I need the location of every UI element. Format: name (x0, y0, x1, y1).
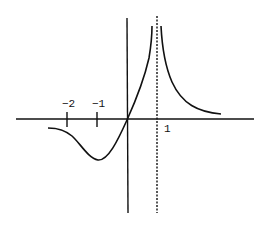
tick-label-neg1: −1 (92, 98, 106, 110)
y-axis (127, 18, 128, 213)
tick-label-1: 1 (164, 123, 171, 135)
curve-left-branch (48, 26, 152, 160)
tick-label-neg2: −2 (62, 98, 75, 110)
curve-right-branch (161, 26, 221, 114)
function-graph: −2 −1 1 (0, 0, 269, 225)
